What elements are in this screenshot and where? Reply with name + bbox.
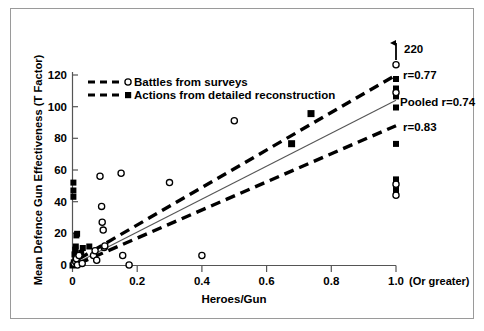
data-point-circle (118, 170, 124, 176)
data-point-square (86, 244, 92, 250)
data-point-square (308, 110, 315, 117)
data-point-square (80, 245, 86, 251)
legend-label-actions: Actions from detailed reconstruction (134, 89, 335, 101)
y-tick-label-20: 20 (54, 227, 67, 239)
y-axis-title: Mean Defence Gun Effectiveness (T Factor… (32, 54, 44, 285)
data-point-circle (199, 252, 205, 258)
data-point-square (70, 188, 76, 194)
scatter-plot: 0 20 40 60 80 100 120 0 0.2 0.4 0.6 0.8 … (0, 0, 484, 331)
data-point-circle (126, 262, 132, 268)
x-tick-label-0-4: 0.4 (194, 275, 211, 287)
data-point-circle (97, 173, 103, 179)
data-point-square (74, 231, 80, 237)
data-point-circle (166, 180, 172, 186)
x-axis-suffix-or-greater: (Or greater) (409, 275, 470, 287)
x-ticks (73, 266, 397, 273)
data-point-square (73, 244, 79, 250)
data-point-circle (94, 257, 100, 263)
x-tick-label-0-2: 0.2 (129, 275, 145, 287)
chart-legend: Battles from surveys Actions from detail… (88, 76, 335, 101)
fit-label-upper: r=0.77 (403, 69, 437, 81)
fit-line-pooled-solid (79, 100, 396, 261)
data-point-square (70, 180, 76, 186)
y-tick-label-80: 80 (54, 132, 67, 144)
data-point-circle (99, 203, 105, 209)
y-tick-label-120: 120 (48, 69, 67, 81)
data-point-circle (231, 118, 237, 124)
fit-line-upper-dashed (79, 75, 396, 259)
y-tick-label-0: 0 (61, 259, 67, 271)
x-tick-label-0-6: 0.6 (259, 275, 275, 287)
data-point-circle (393, 181, 399, 187)
offscale-value-label: 220 (404, 43, 423, 55)
y-tick-label-100: 100 (48, 101, 67, 113)
fit-label-pooled: Pooled r=0.74 (400, 96, 476, 108)
data-point-circle (393, 62, 399, 68)
fit-line-labels: r=0.77 Pooled r=0.74 r=0.83 (400, 69, 476, 133)
y-tick-label-40: 40 (54, 196, 67, 208)
data-point-square (393, 105, 399, 111)
data-point-square (393, 76, 399, 82)
legend-marker-filled-square (125, 92, 131, 98)
data-point-circle (99, 219, 105, 225)
fit-line-lower-dashed (79, 126, 396, 264)
fit-label-lower: r=0.83 (403, 121, 437, 133)
y-tick-labels: 0 20 40 60 80 100 120 (48, 69, 67, 271)
data-point-circle (393, 192, 399, 198)
data-point-circle (393, 90, 399, 96)
data-point-square (288, 140, 295, 147)
data-point-circle (79, 260, 85, 266)
data-point-square (393, 141, 399, 147)
data-point-circle (76, 252, 82, 258)
data-point-circle (92, 248, 98, 254)
figure-root: 0 20 40 60 80 100 120 0 0.2 0.4 0.6 0.8 … (0, 0, 484, 331)
fit-lines (79, 75, 396, 263)
x-tick-label-0-8: 0.8 (323, 275, 340, 287)
x-axis-title: Heroes/Gun (201, 293, 266, 305)
data-point-circle (102, 243, 108, 249)
offscale-annotation: 220 (396, 43, 423, 60)
data-point-circle (120, 252, 126, 258)
data-point-square (70, 194, 76, 200)
legend-label-battles: Battles from surveys (134, 76, 248, 88)
x-tick-label-1-0: 1.0 (388, 275, 404, 287)
y-tick-label-60: 60 (54, 164, 67, 176)
x-tick-labels: 0 0.2 0.4 0.6 0.8 1.0 (Or greater) (69, 275, 470, 287)
x-tick-label-0: 0 (69, 275, 75, 287)
legend-marker-open-circle (125, 79, 131, 85)
data-point-circle (100, 227, 106, 233)
